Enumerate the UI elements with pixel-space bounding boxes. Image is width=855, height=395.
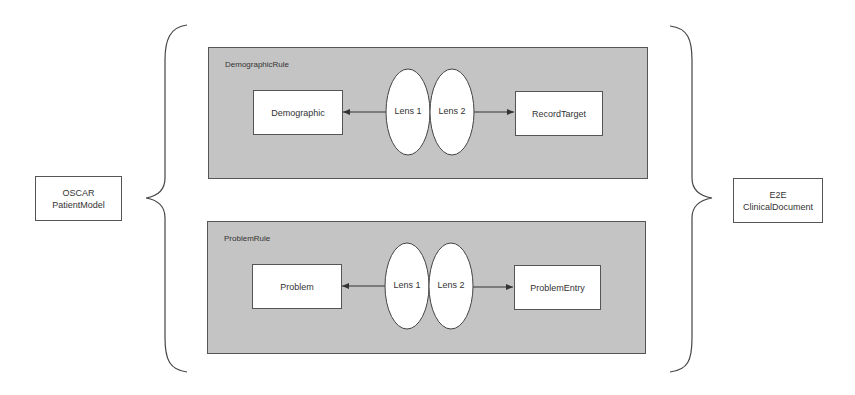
lens2-label[interactable]: Lens 2 <box>430 106 474 116</box>
recordtarget-box[interactable]: RecordTarget <box>515 91 603 136</box>
target-label: ProblemEntry <box>530 282 585 294</box>
lens2-label[interactable]: Lens 2 <box>429 280 473 290</box>
source-label: Demographic <box>271 107 325 119</box>
lens1-label[interactable]: Lens 1 <box>386 106 430 116</box>
target-label: RecordTarget <box>532 108 586 120</box>
demographic-box[interactable]: Demographic <box>253 90 343 135</box>
rule-arrows-overlay <box>0 0 855 395</box>
problem-box[interactable]: Problem <box>252 264 342 309</box>
lens1-label[interactable]: Lens 1 <box>385 280 429 290</box>
source-label: Problem <box>280 281 314 293</box>
problementry-box[interactable]: ProblemEntry <box>514 265 601 310</box>
